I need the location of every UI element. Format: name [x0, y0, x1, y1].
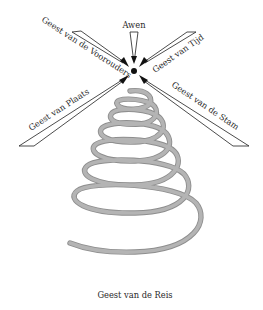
awen-diagram: Awen Geest van de Voorouders Geest van T…: [0, 0, 263, 310]
voorouders-label: Geest van de Voorouders: [40, 14, 134, 80]
reis-label: Geest van de Reis: [97, 290, 172, 300]
spiral-journey: [70, 91, 201, 252]
awen-label: Awen: [122, 20, 147, 30]
awen-arrow: [130, 32, 138, 64]
